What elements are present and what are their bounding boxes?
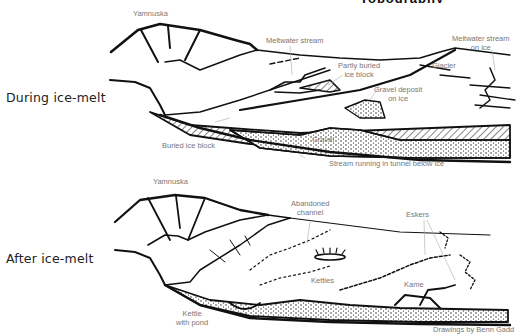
label-kame: Kame <box>404 281 424 290</box>
label-abandoned-line2: channel <box>297 208 323 217</box>
label-kettle-pond-line2: with pond <box>176 318 208 327</box>
label-meltwater-on-ice: Meltwater streamon ice <box>452 35 510 52</box>
label-gravel-deposit-line2: on ice <box>388 94 408 103</box>
label-meltwater-on-ice-line2: on ice <box>471 43 491 52</box>
label-partly-buried-ice-block: Partly buriedice block <box>338 62 380 79</box>
label-glacier: Glacier <box>432 62 456 71</box>
label-gravel-deposit-on-ice: Gravel depositon ice <box>374 86 422 103</box>
label-meltwater-stream: Meltwater stream <box>266 37 324 46</box>
label-abandoned-channel: Abandonedchannel <box>291 200 329 217</box>
label-kettle-with-pond: Kettlewith pond <box>176 310 208 327</box>
label-stream-tunnel: Stream running in tunnel below ice <box>329 160 444 169</box>
label-partly-buried-line2: ice block <box>344 70 373 79</box>
label-eskers: Eskers <box>406 211 429 220</box>
credit-text: Drawings by Benn Gadd <box>433 326 514 335</box>
label-gravel: Gravel <box>312 136 334 145</box>
label-yamnuska-bottom: Yamnuska <box>153 178 188 187</box>
label-yamnuska-top: Yamnuska <box>133 10 168 19</box>
label-kettles: Kettles <box>311 277 334 286</box>
label-buried-ice-block: Buried ice block <box>162 142 215 151</box>
